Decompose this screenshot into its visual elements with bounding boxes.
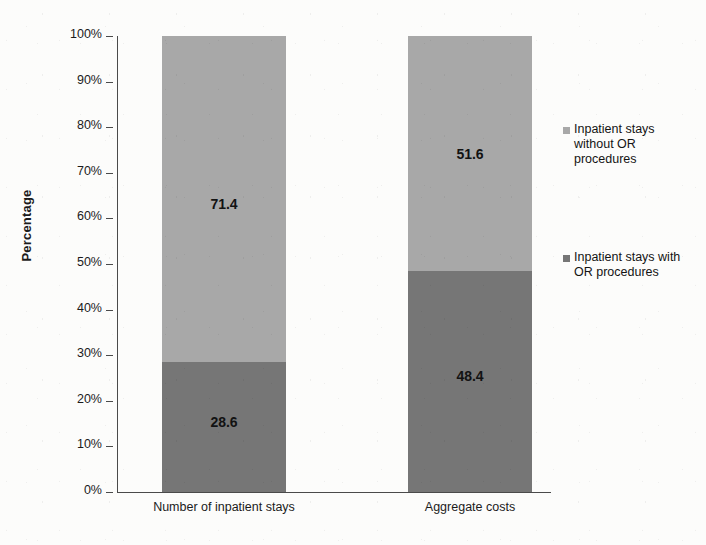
y-tick-mark [106,127,113,128]
legend-swatch-icon [563,127,570,134]
y-tick-label: 80% [77,118,102,132]
bar-segment-value-label: 28.6 [162,414,286,430]
y-tick-mark [106,401,113,402]
y-axis-line [117,36,118,493]
y-tick-label: 100% [70,27,102,41]
bar-segment-value-label: 51.6 [408,146,532,162]
y-tick-label: 40% [77,301,102,315]
legend-entry-label: Inpatient stays without OR procedures [574,122,692,167]
bar-segment-without-or-procedures[interactable]: 51.6 [408,36,532,271]
y-tick-mark [106,355,113,356]
y-tick-mark [106,492,113,493]
y-axis-title: Percentage [19,156,34,296]
y-tick-mark [106,36,113,37]
x-category-label-aggregate-costs: Aggregate costs [390,500,550,514]
y-tick-mark [106,310,113,311]
x-axis-line [117,492,551,493]
y-tick-label: 70% [77,164,102,178]
bar-segment-with-or-procedures[interactable]: 28.6 [162,362,286,492]
legend-swatch-icon [563,255,570,262]
bar-segment-with-or-procedures[interactable]: 48.4 [408,271,532,492]
y-tick-label: 20% [77,392,102,406]
stacked-bar-chart: Percentage 100% 90% 80% 70% 60% 50% 40% … [0,0,706,545]
y-tick-mark [106,82,113,83]
y-tick-label: 10% [77,437,102,451]
bar-segment-without-or-procedures[interactable]: 71.4 [162,36,286,362]
y-tick-mark [106,218,113,219]
y-tick-mark [106,264,113,265]
bar-number-of-inpatient-stays[interactable]: 71.4 28.6 [162,36,286,492]
y-tick-mark [106,173,113,174]
legend-entry-label: Inpatient stays with OR procedures [574,250,692,280]
bar-aggregate-costs[interactable]: 51.6 48.4 [408,36,532,492]
y-tick-label: 90% [77,73,102,87]
bar-segment-value-label: 48.4 [408,368,532,384]
y-tick-label: 60% [77,209,102,223]
y-tick-label: 50% [77,255,102,269]
bar-segment-value-label: 71.4 [162,196,286,212]
legend-entry-without-or-procedures[interactable]: Inpatient stays without OR procedures [563,122,692,167]
y-tick-mark [106,446,113,447]
legend-entry-with-or-procedures[interactable]: Inpatient stays with OR procedures [563,250,692,280]
y-tick-label: 30% [77,346,102,360]
y-tick-label: 0% [84,483,102,497]
x-category-label-number-of-inpatient-stays: Number of inpatient stays [144,500,304,514]
